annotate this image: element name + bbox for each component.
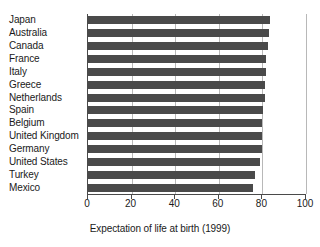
category-label: Netherlands xyxy=(0,91,80,104)
bar-row xyxy=(88,27,306,40)
category-label: Spain xyxy=(0,104,80,117)
bar-row xyxy=(88,91,306,104)
bar xyxy=(88,55,266,63)
category-label: Canada xyxy=(0,40,80,53)
bar-row xyxy=(88,117,306,130)
x-tick-label: 80 xyxy=(256,199,267,209)
bar-row xyxy=(88,143,306,156)
bar xyxy=(88,145,262,153)
bar xyxy=(88,184,253,192)
bar-row xyxy=(88,104,306,117)
bar-row xyxy=(88,181,306,194)
category-axis: JapanAustraliaCanadaFranceItalyGreeceNet… xyxy=(0,14,80,194)
category-label: Germany xyxy=(0,143,80,156)
category-label: Greece xyxy=(0,78,80,91)
bar xyxy=(88,171,255,179)
bar xyxy=(88,132,262,140)
category-label: United States xyxy=(0,155,80,168)
category-label: Italy xyxy=(0,65,80,78)
bar xyxy=(88,158,260,166)
bar xyxy=(88,94,265,102)
life-expectancy-bar-chart: JapanAustraliaCanadaFranceItalyGreeceNet… xyxy=(0,0,320,247)
bar-row xyxy=(88,40,306,53)
x-tick-label: 0 xyxy=(84,199,90,209)
bar xyxy=(88,106,263,114)
category-label: Australia xyxy=(0,27,80,40)
category-label: Mexico xyxy=(0,181,80,194)
x-tick-label: 60 xyxy=(212,199,223,209)
category-label: Belgium xyxy=(0,117,80,130)
bar xyxy=(88,81,265,89)
category-label: United Kingdom xyxy=(0,130,80,143)
category-label: Turkey xyxy=(0,168,80,181)
bar-row xyxy=(88,155,306,168)
bar xyxy=(88,119,262,127)
bar xyxy=(88,68,266,76)
bar-row xyxy=(88,168,306,181)
bar xyxy=(88,16,270,24)
bar-row xyxy=(88,130,306,143)
gridline xyxy=(306,14,307,194)
plot-area xyxy=(87,14,306,194)
x-tick-label: 40 xyxy=(169,199,180,209)
x-tick-label: 100 xyxy=(297,199,314,209)
x-axis-ticks: 020406080100 xyxy=(87,195,305,211)
bar-row xyxy=(88,78,306,91)
x-tick-label: 20 xyxy=(125,199,136,209)
bar-row xyxy=(88,14,306,27)
bar xyxy=(88,42,268,50)
category-label: Japan xyxy=(0,14,80,27)
x-axis-title: Expectation of life at birth (1999) xyxy=(0,224,320,234)
bar xyxy=(88,29,269,37)
bars-layer xyxy=(88,14,306,194)
bar-row xyxy=(88,53,306,66)
category-label: France xyxy=(0,53,80,66)
bar-row xyxy=(88,65,306,78)
